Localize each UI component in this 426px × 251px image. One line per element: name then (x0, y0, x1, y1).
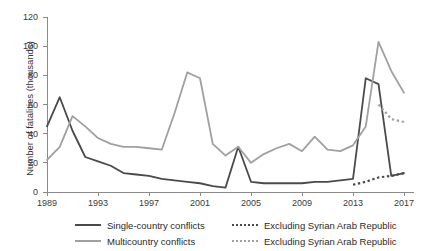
legend-item[interactable]: Single-country conflicts (75, 218, 205, 232)
legend-label: Excluding Syrian Arab Republic (264, 236, 397, 247)
legend-label: Multicountry conflicts (107, 236, 195, 247)
chart-legend: Single-country conflictsExcluding Syrian… (0, 216, 426, 251)
legend-item[interactable]: Multicountry conflicts (75, 234, 195, 248)
legend-swatch-solid (75, 240, 101, 242)
axis-lines (47, 17, 414, 192)
series-line (47, 78, 404, 187)
legend-item[interactable]: Excluding Syrian Arab Republic (232, 218, 397, 232)
series-line (47, 42, 404, 163)
tick-marks (43, 17, 404, 196)
fatalities-line-chart: Number of fatalities (thousands) 0204060… (0, 0, 426, 251)
legend-label: Single-country conflicts (107, 220, 205, 231)
legend-item[interactable]: Excluding Syrian Arab Republic (232, 234, 397, 248)
legend-swatch-dotted (232, 240, 258, 242)
legend-label: Excluding Syrian Arab Republic (264, 220, 397, 231)
legend-swatch-dotted (232, 224, 258, 226)
series-paths (47, 42, 404, 188)
plot-area (0, 0, 426, 251)
legend-swatch-solid (75, 224, 101, 226)
